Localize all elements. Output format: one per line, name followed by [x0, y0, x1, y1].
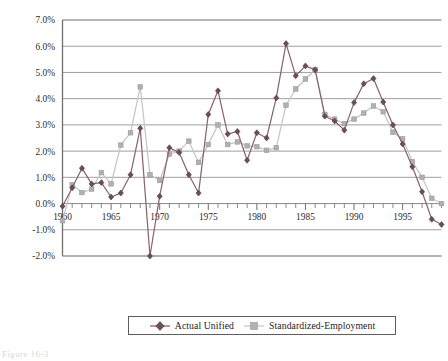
- data-point-marker: [235, 140, 240, 145]
- x-tick-label: 1995: [393, 212, 412, 222]
- y-tick-label: 7.0%: [35, 15, 55, 25]
- y-tick-label: -2.0%: [32, 251, 55, 261]
- legend-item-standardized-employment: Standardized-Employment: [243, 320, 375, 332]
- data-point-marker: [206, 142, 211, 147]
- y-tick-label: 5.0%: [35, 68, 55, 78]
- data-point-marker: [371, 104, 376, 109]
- chart-legend: Actual Unified Standardized-Employment: [128, 316, 396, 335]
- data-point-marker: [391, 130, 396, 135]
- data-point-marker: [89, 187, 94, 192]
- data-point-marker: [109, 182, 114, 187]
- data-point-marker: [255, 144, 260, 149]
- y-tick-label: 1.0%: [35, 173, 55, 183]
- y-tick-label: 6.0%: [35, 42, 55, 52]
- data-point-marker: [157, 178, 162, 183]
- data-point-marker: [284, 103, 289, 108]
- x-tick-label: 1990: [345, 212, 364, 222]
- legend-item-actual-unified: Actual Unified: [149, 320, 234, 332]
- y-axis-tick-labels: 7.0%6.0%5.0%4.0%3.0%2.0%1.0%0.0%-1.0%-2.…: [32, 15, 55, 261]
- data-point-marker: [381, 109, 386, 114]
- data-point-marker: [245, 144, 250, 149]
- square-marker-icon: [243, 320, 265, 332]
- y-tick-label: 0.0%: [35, 199, 55, 209]
- x-tick-label: 1985: [296, 212, 315, 222]
- data-point-marker: [148, 172, 153, 177]
- x-tick-label: 1970: [150, 212, 169, 222]
- x-tick-label: 1975: [199, 212, 218, 222]
- data-point-marker: [303, 77, 308, 82]
- data-point-marker: [429, 196, 434, 201]
- y-tick-label: -1.0%: [32, 225, 55, 235]
- data-point-marker: [216, 123, 221, 128]
- x-tick-label: 1965: [102, 212, 121, 222]
- data-point-marker: [187, 139, 192, 144]
- data-point-marker: [196, 160, 201, 165]
- data-point-marker: [80, 190, 85, 195]
- y-tick-label: 2.0%: [35, 147, 55, 157]
- deficit-line-chart: 7.0%6.0%5.0%4.0%3.0%2.0%1.0%0.0%-1.0%-2.…: [0, 0, 448, 361]
- x-tick-label: 1980: [247, 212, 266, 222]
- y-tick-label: 3.0%: [35, 120, 55, 130]
- diamond-marker-icon: [149, 320, 171, 332]
- data-point-marker: [138, 85, 143, 90]
- y-tick-label: 4.0%: [35, 94, 55, 104]
- data-point-marker: [119, 143, 124, 148]
- data-point-marker: [293, 87, 298, 92]
- figure-caption: Figure 16-3: [2, 349, 49, 359]
- data-point-marker: [439, 201, 444, 206]
- figure-container: 7.0%6.0%5.0%4.0%3.0%2.0%1.0%0.0%-1.0%-2.…: [0, 0, 448, 361]
- legend-label-standardized-employment: Standardized-Employment: [269, 320, 375, 331]
- data-point-marker: [264, 148, 269, 153]
- data-point-marker: [274, 145, 279, 150]
- data-point-marker: [99, 170, 104, 175]
- data-point-marker: [352, 117, 357, 122]
- data-point-marker: [225, 142, 230, 147]
- data-point-marker: [128, 130, 133, 135]
- legend-label-actual-unified: Actual Unified: [175, 320, 234, 331]
- data-point-marker: [361, 111, 366, 116]
- data-point-marker: [420, 175, 425, 180]
- data-point-marker: [60, 218, 65, 223]
